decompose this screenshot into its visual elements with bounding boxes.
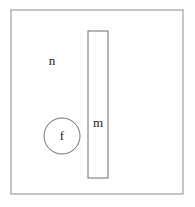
diagram-canvas: n m f: [0, 0, 195, 207]
label-m: m: [93, 115, 103, 130]
vertical-bar-rect: [88, 31, 108, 178]
label-f: f: [60, 128, 65, 143]
outer-boundary-rect: [11, 10, 183, 194]
figure-container: n m f: [0, 0, 195, 207]
label-n: n: [49, 53, 56, 68]
